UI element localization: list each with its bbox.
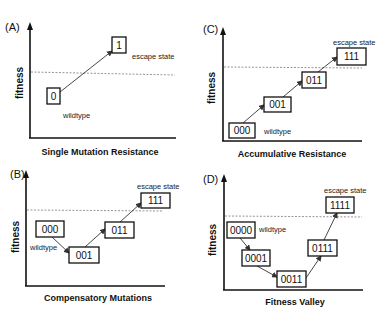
- escape-threshold-line: [27, 210, 163, 211]
- transition-arrow: [283, 81, 302, 97]
- genotype-label: 0111: [312, 243, 333, 254]
- genotype-node: 011: [105, 222, 134, 238]
- y-axis-arrow-icon: [220, 27, 226, 35]
- panel-label: (B): [10, 168, 25, 180]
- escape-state-annotation: escape state: [137, 182, 180, 191]
- genotype-label: 0: [51, 91, 57, 102]
- genotype-node: 0000: [227, 222, 255, 238]
- wildtype-annotation: wildtype: [258, 225, 286, 234]
- wildtype-annotation: wildtype: [263, 127, 291, 136]
- panel-a: (A) fitness 0 1 wildtype escape state Si…: [5, 21, 176, 157]
- transition-arrow: [60, 51, 112, 92]
- y-axis-label: fitness: [207, 223, 218, 256]
- genotype-node: 001: [264, 97, 291, 112]
- y-axis-arrow-icon: [27, 22, 33, 30]
- genotype-node: 000: [229, 123, 255, 138]
- transition-arrow: [306, 256, 321, 278]
- genotype-node: 1: [112, 37, 126, 53]
- genotype-node: 111: [141, 193, 170, 208]
- genotype-label: 000: [42, 224, 59, 235]
- transition-arrow: [85, 229, 105, 247]
- transition-arrow: [120, 203, 141, 222]
- panel-label: (D): [203, 173, 218, 185]
- escape-threshold-line: [31, 72, 175, 75]
- escape-state-annotation: escape state: [132, 52, 175, 61]
- genotype-node: 0011: [277, 271, 306, 287]
- panel-title: Single Mutation Resistance: [41, 147, 158, 157]
- y-axis-arrow-icon: [221, 174, 227, 182]
- genotype-node: 0001: [242, 250, 270, 266]
- y-axis-label: fitness: [206, 71, 217, 104]
- y-axis-label: fitness: [10, 220, 21, 253]
- genotype-label: 111: [148, 195, 164, 206]
- genotype-node: 111: [337, 48, 366, 65]
- genotype-label: 1: [116, 40, 122, 51]
- y-axis-label: fitness: [14, 66, 25, 99]
- genotype-label: 0011: [281, 274, 303, 285]
- panel-d: (D) fitness 0000 0001 0011 0111 1111: [203, 173, 367, 307]
- wildtype-annotation: wildtype: [29, 243, 57, 252]
- escape-state-annotation: escape state: [333, 38, 376, 47]
- genotype-label: 0001: [245, 253, 268, 264]
- genotype-node: 001: [69, 247, 99, 263]
- transition-arrow: [318, 57, 337, 72]
- escape-state-annotation: escape state: [324, 186, 367, 195]
- panel-title: Accumulative Resistance: [238, 149, 347, 159]
- genotype-node: 000: [36, 221, 64, 237]
- panel-title: Fitness Valley: [265, 297, 325, 307]
- transition-arrow: [240, 238, 250, 250]
- transition-arrow: [243, 105, 264, 123]
- wildtype-annotation: wildtype: [62, 111, 90, 120]
- genotype-node: 0: [47, 88, 60, 104]
- genotype-node: 0111: [308, 240, 337, 256]
- panel-title: Compensatory Mutations: [44, 293, 152, 303]
- panel-label: (C): [203, 23, 218, 35]
- panel-c: (C) fitness 000 001 011 111 wildtype esc…: [203, 23, 376, 159]
- genotype-label: 0000: [230, 225, 253, 236]
- genotype-label: 1111: [330, 200, 350, 211]
- panel-b: (B) fitness 000 001 011 111 wildtype esc…: [10, 168, 180, 303]
- genotype-label: 001: [269, 99, 286, 110]
- fitness-landscape-figure: (A) fitness 0 1 wildtype escape state Si…: [0, 0, 382, 315]
- genotype-label: 011: [112, 225, 128, 236]
- genotype-label: 011: [306, 75, 322, 86]
- genotype-node: 011: [302, 72, 326, 88]
- escape-threshold-line: [224, 67, 362, 68]
- panel-label: (A): [5, 21, 20, 33]
- genotype-label: 001: [76, 250, 93, 261]
- genotype-label: 000: [234, 125, 251, 136]
- genotype-node: 1111: [326, 197, 354, 213]
- genotype-label: 111: [344, 51, 360, 62]
- escape-threshold-line: [225, 216, 362, 217]
- transition-arrow: [257, 266, 277, 277]
